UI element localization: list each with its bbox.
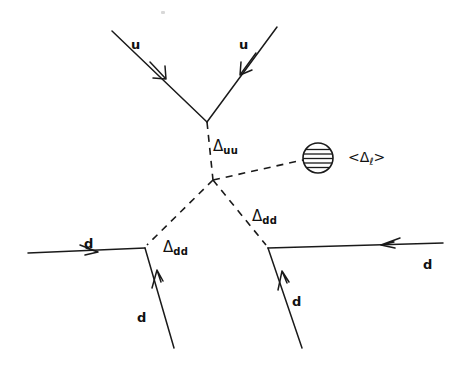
label-d-quark-right-outgoing: d	[292, 295, 301, 308]
feynman-diagram-canvas	[0, 0, 467, 369]
feynman-diagram: u u d d d d Δuu Δdd Δdd <Δℓ>	[0, 0, 467, 369]
vev-close-bracket: >	[373, 149, 385, 165]
delta-uu-subscript: uu	[223, 145, 238, 156]
label-u-quark-left: u	[131, 38, 140, 51]
label-d-quark-left-outgoing: d	[137, 311, 146, 324]
vev-open-bracket: <	[348, 149, 360, 165]
d-quark-right-incoming-line	[268, 238, 443, 248]
delta-uu-symbol: Δ	[213, 137, 223, 155]
label-delta-L-vev: <Δℓ>	[348, 150, 385, 167]
label-d-quark-left-incoming: d	[84, 237, 93, 250]
delta-dd-left-symbol: Δ	[163, 238, 173, 256]
delta-dd-left-propagator	[147, 180, 213, 245]
d-quark-left-outgoing-line	[145, 248, 174, 348]
label-d-quark-right-incoming: d	[423, 258, 432, 271]
u-quark-left-line	[112, 31, 207, 122]
vev-delta-symbol: Δ	[360, 149, 370, 165]
delta-L-propagator	[213, 160, 303, 180]
label-delta-dd-left: Δdd	[163, 240, 188, 257]
label-u-quark-right: u	[239, 38, 248, 51]
delta-dd-left-subscript: dd	[173, 246, 188, 257]
label-delta-uu: Δuu	[213, 139, 238, 156]
vev-blob-icon	[303, 143, 333, 173]
delta-dd-right-symbol: Δ	[252, 207, 262, 225]
label-delta-dd-right: Δdd	[252, 209, 277, 226]
delta-dd-right-subscript: dd	[262, 215, 277, 226]
